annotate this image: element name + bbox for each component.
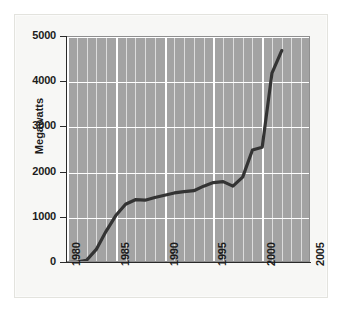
x-axis-tick-label-1980: 1980 — [70, 242, 82, 266]
plot-area — [66, 36, 310, 262]
x-axis-tick-label-1985: 1985 — [119, 242, 131, 266]
y-axis-tick-label-3000: 3000 — [8, 119, 56, 131]
y-axis-title: Megawatts — [33, 81, 45, 171]
x-axis-tick-label-1990: 1990 — [168, 242, 180, 266]
y-axis-tick-label-4000: 4000 — [8, 74, 56, 86]
y-axis-tick-label-0: 0 — [8, 255, 56, 267]
x-axis-tick-label-2005: 2005 — [314, 242, 326, 266]
series-line-megawatts — [67, 37, 310, 262]
y-axis-tick-label-1000: 1000 — [8, 210, 56, 222]
y-axis-line — [66, 36, 67, 263]
y-axis-tick-label-5000: 5000 — [8, 29, 56, 41]
chart-figure: 010002000300040005000 198019851990199520… — [0, 0, 343, 310]
x-axis-tick-label-1995: 1995 — [216, 242, 228, 266]
x-axis-tick-label-2000: 2000 — [265, 242, 277, 266]
y-axis-tick-label-2000: 2000 — [8, 165, 56, 177]
